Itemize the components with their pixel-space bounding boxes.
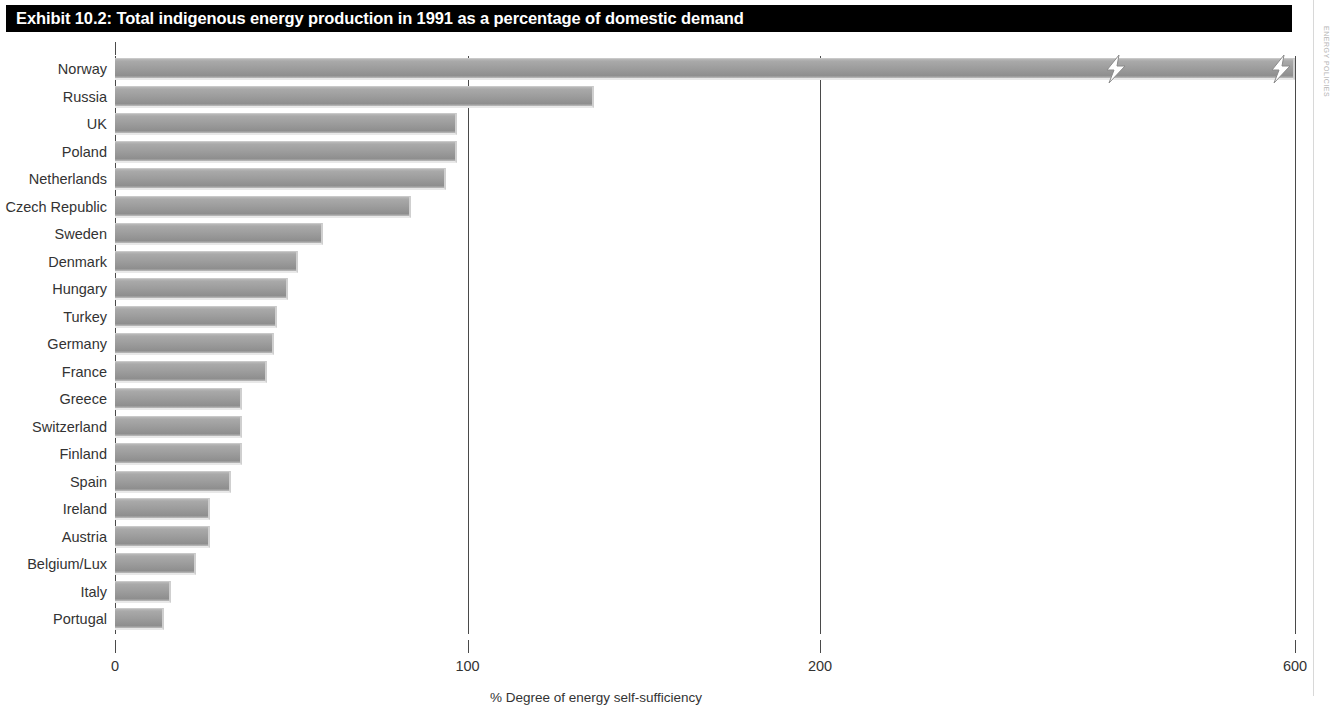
- gridline-100: [468, 56, 469, 634]
- category-label: Turkey: [63, 306, 107, 328]
- x-axis-title-text: % Degree of energy self-sufficiency: [490, 690, 702, 705]
- category-label: Austria: [62, 526, 107, 548]
- gridline-600: [1295, 56, 1296, 634]
- bar: [115, 278, 288, 300]
- bar: [115, 443, 242, 465]
- x-axis-tick-label: 100: [455, 658, 479, 674]
- exhibit-title-bar: Exhibit 10.2: Total indigenous energy pr…: [6, 5, 1292, 32]
- x-axis-tick: [468, 640, 469, 653]
- category-label: Netherlands: [29, 168, 107, 190]
- category-label: Hungary: [52, 278, 107, 300]
- axis-break-icon: [1105, 55, 1127, 83]
- x-axis-origin-stub: [115, 42, 116, 55]
- category-label: UK: [87, 113, 107, 135]
- bar: [115, 581, 171, 603]
- gridline-200: [820, 56, 821, 634]
- bar: [115, 196, 411, 218]
- category-label: Sweden: [55, 223, 107, 245]
- bar: [115, 388, 242, 410]
- x-axis-tick: [820, 640, 821, 653]
- bar: [115, 498, 210, 520]
- category-label: Czech Republic: [5, 196, 107, 218]
- category-label: Norway: [58, 58, 107, 80]
- category-label: Belgium/Lux: [27, 553, 107, 575]
- bar: [115, 526, 210, 548]
- x-axis-tick: [1295, 640, 1296, 653]
- x-axis-title: % Degree of energy self-sufficiency: [0, 690, 1332, 705]
- bar: [115, 86, 594, 108]
- bar: [115, 306, 277, 328]
- x-axis-tick-label: 0: [111, 658, 119, 674]
- bar: [115, 168, 446, 190]
- bar-chart: NorwayRussiaUKPolandNetherlandsCzech Rep…: [0, 38, 1332, 678]
- category-label: Portugal: [53, 608, 107, 630]
- bar: [115, 251, 298, 273]
- bar: [115, 361, 267, 383]
- bar: [115, 608, 164, 630]
- category-label: Russia: [63, 86, 107, 108]
- axis-break-icon: [1270, 55, 1292, 83]
- bar: [115, 471, 231, 493]
- category-label: Italy: [80, 581, 107, 603]
- x-axis-tick: [115, 640, 116, 653]
- x-axis-tick-label: 200: [808, 658, 832, 674]
- category-label: Finland: [59, 443, 107, 465]
- x-axis-tick-label: 600: [1283, 658, 1307, 674]
- category-label: Germany: [47, 333, 107, 355]
- category-axis-labels: NorwayRussiaUKPolandNetherlandsCzech Rep…: [0, 56, 107, 634]
- plot-area: 0100200600: [115, 56, 1295, 634]
- bar: [115, 333, 274, 355]
- bar: [115, 223, 323, 245]
- category-label: Spain: [70, 471, 107, 493]
- category-label: Switzerland: [32, 416, 107, 438]
- bar: [115, 553, 196, 575]
- bar: [115, 141, 457, 163]
- category-label: Poland: [62, 141, 107, 163]
- bar: [115, 113, 457, 135]
- category-label: France: [62, 361, 107, 383]
- bar: [115, 416, 242, 438]
- page-title: Exhibit 10.2: Total indigenous energy pr…: [6, 9, 744, 28]
- category-label: Greece: [59, 388, 107, 410]
- category-label: Ireland: [63, 498, 107, 520]
- category-label: Denmark: [48, 251, 107, 273]
